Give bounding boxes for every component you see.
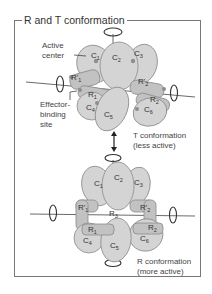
rotation-icon [57,76,64,92]
active-site-dot [95,101,99,105]
subunit-c2 [102,162,134,210]
subunit-r1 [82,224,114,235]
active-site-dot [135,107,139,111]
effector-site-dot [78,88,82,92]
rotation-icon [171,85,178,101]
effector-site-dot [162,87,166,91]
subunit-c5 [98,216,134,264]
label-r3: R3 [109,209,118,219]
r-conformation-complex: C1 C2 C3 R'1 R'2 R3 R1 R2 C4 C5 C6 [30,155,195,267]
atcase-diagram: .cs { fill: #d4d4d4; stroke: #8a8a8a; st… [0,0,212,294]
active-site-dot [131,59,135,63]
transition-arrow [111,131,117,152]
effector-pointer [70,91,77,92]
rotation-icon [50,205,57,221]
rotation-icon [170,207,177,223]
t-conformation-complex: C1 C2 C3 R'1 R1 R'2 R2 C4 C5 C6 [26,28,195,136]
